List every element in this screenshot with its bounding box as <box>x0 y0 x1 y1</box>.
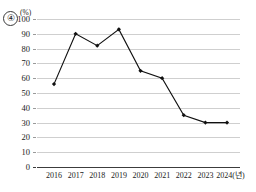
y-axis-tick-label: 0 <box>26 163 30 172</box>
y-axis-tick-label: 30 <box>22 118 31 127</box>
y-axis-tick-label: 80 <box>22 44 31 53</box>
data-point-marker <box>74 32 78 36</box>
plot-area: 0102030405060708090100 20162017201820192… <box>37 19 240 167</box>
y-axis-tick-label: 100 <box>17 15 30 24</box>
series-marker-group <box>52 27 229 124</box>
x-axis-tick-label: 2024(년) <box>216 171 244 181</box>
data-point-marker <box>203 121 207 125</box>
y-axis-tick-mark <box>33 34 36 35</box>
y-axis-tick-mark <box>33 152 36 153</box>
y-axis-tick-mark <box>33 123 36 124</box>
x-axis-tick-label: 2019 <box>111 171 127 181</box>
x-axis-tick-label: 2018 <box>89 171 105 181</box>
x-axis-baseline <box>37 167 240 168</box>
y-axis-tick-label: 40 <box>22 103 31 112</box>
y-axis-tick-label: 70 <box>22 59 31 68</box>
y-axis-tick-mark <box>33 137 36 138</box>
chart-container: ④ (%) 0102030405060708090100 20162017201… <box>0 0 256 192</box>
y-axis-tick-mark <box>33 19 36 20</box>
x-axis-tick-label: 2022 <box>176 171 192 181</box>
y-axis-tick-label: 60 <box>22 74 31 83</box>
y-axis-tick-label: 10 <box>22 148 31 157</box>
y-axis-tick-label: 50 <box>22 89 31 98</box>
y-axis-tick-mark <box>33 49 36 50</box>
x-axis-tick-label: 2021 <box>154 171 170 181</box>
data-point-marker <box>225 121 229 125</box>
y-axis-tick-mark <box>33 63 36 64</box>
y-axis-tick-label: 90 <box>22 29 31 38</box>
data-series-svg <box>37 19 240 167</box>
y-axis-tick-mark <box>33 167 36 168</box>
x-axis-tick-label: 2020 <box>133 171 149 181</box>
y-axis-tick-label: 20 <box>22 133 31 142</box>
x-axis-tick-label: 2023 <box>197 171 213 181</box>
y-axis-tick-mark <box>33 93 36 94</box>
data-point-marker <box>52 82 56 86</box>
x-axis-tick-label: 2016 <box>46 171 62 181</box>
series-line-path <box>54 29 227 122</box>
y-axis-tick-mark <box>33 78 36 79</box>
x-axis-tick-label: 2017 <box>68 171 84 181</box>
item-number-badge: ④ <box>3 11 18 26</box>
data-point-marker <box>138 69 142 73</box>
y-axis-tick-mark <box>33 108 36 109</box>
